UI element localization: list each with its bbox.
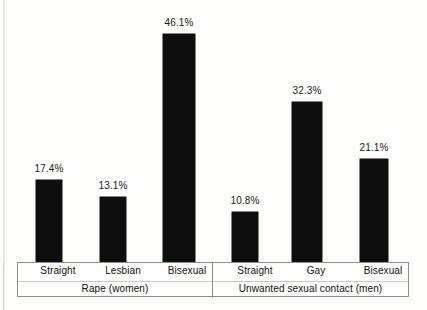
bar-value-label: 46.1%: [149, 17, 209, 28]
bar-value-label: 17.4%: [19, 163, 79, 174]
label-row-divider: [18, 281, 408, 282]
scan-artifact-left-lower: [3, 262, 5, 310]
bar-straight-men: [232, 212, 258, 262]
category-label-bisexual-women: Bisexual: [149, 265, 225, 276]
chart-page: 17.4% 13.1% 46.1% 10.8% 32.3% 21.1% Stra…: [0, 0, 427, 310]
bar-value-label: 13.1%: [83, 180, 143, 191]
bar-value-label: 10.8%: [215, 195, 275, 206]
bar-lesbian: [100, 197, 126, 262]
bar-value-label: 21.1%: [344, 142, 404, 153]
bar-value-label: 32.3%: [277, 85, 337, 96]
category-label-gay: Gay: [278, 265, 354, 276]
group-label-unwanted-contact-men: Unwanted sexual contact (men): [213, 283, 408, 294]
category-label-bisexual-men: Bisexual: [345, 265, 421, 276]
axis-label-box: Straight Lesbian Bisexual Straight Gay B…: [17, 262, 409, 297]
bar-straight-women: [36, 180, 62, 262]
plot-area: 17.4% 13.1% 46.1% 10.8% 32.3% 21.1%: [0, 0, 427, 262]
bar-gay: [292, 102, 322, 262]
bar-bisexual-men: [360, 159, 388, 262]
group-label-rape-women: Rape (women): [18, 283, 212, 294]
bar-bisexual-women: [163, 34, 195, 262]
